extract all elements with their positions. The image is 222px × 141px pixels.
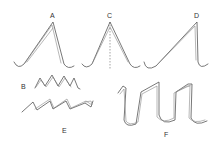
label-a: A xyxy=(50,12,55,19)
label-c: C xyxy=(107,12,112,19)
label-d: D xyxy=(194,12,199,19)
panel-f-shape xyxy=(118,82,207,125)
panel-d-shape xyxy=(144,22,208,68)
stroke-figure xyxy=(0,0,222,141)
panel-c-shape xyxy=(82,22,140,70)
label-b: B xyxy=(21,83,26,90)
panel-e-shape xyxy=(22,99,93,112)
label-e: E xyxy=(62,127,67,134)
panel-b-shape xyxy=(35,75,80,89)
panel-a-shape xyxy=(14,22,74,68)
label-f: F xyxy=(164,131,168,138)
